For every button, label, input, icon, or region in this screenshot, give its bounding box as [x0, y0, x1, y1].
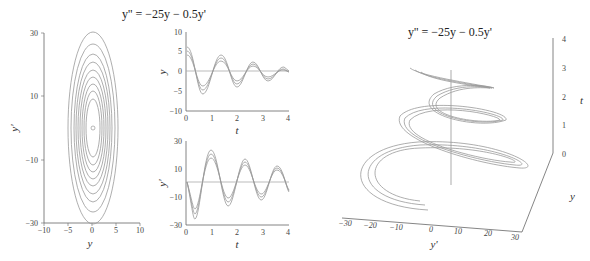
right-figure-title: y'' = −25y − 0.5y'	[408, 25, 492, 39]
d3-xtick: 30	[510, 233, 519, 242]
left-figure-title: y'' = −25y − 0.5y'	[122, 7, 206, 21]
ty-ytick: 0	[178, 67, 182, 76]
d3-xlabel: y'	[429, 238, 438, 250]
d3-xtick: 20	[484, 229, 492, 238]
y-vs-t-plot: 10 5 0 −5 −10 0 1 2 3 4 t y	[156, 28, 290, 136]
ty-ylabel: y	[156, 69, 168, 75]
phase-ylabel: y'	[8, 124, 20, 133]
d3-ztick: 2	[562, 93, 566, 102]
phase-ytick: 30	[30, 29, 38, 38]
phase-xtick: 10	[136, 226, 144, 235]
typ-ylabel: y'	[156, 179, 168, 188]
typ-xtick: 4	[286, 228, 290, 237]
phase-xtick: 0	[90, 226, 94, 235]
ty-xtick: 2	[235, 114, 239, 123]
ty-xtick: 0	[184, 114, 188, 123]
ty-ytick: −10	[169, 107, 182, 116]
d3-ylabel: y	[569, 190, 575, 202]
d3-ztick: 4	[562, 35, 566, 44]
phase-ytick: 10	[30, 92, 38, 101]
equilibrium-marker	[91, 126, 95, 130]
d3-ztick: 1	[562, 121, 566, 130]
typ-ytick: −10	[169, 193, 182, 202]
phase-xtick: 5	[114, 226, 118, 235]
ty-xlabel: t	[235, 124, 239, 136]
phase-xtick: −10	[38, 226, 51, 235]
d3-xtick: −20	[363, 221, 376, 230]
ty-ytick: 10	[174, 28, 182, 37]
d3-ztick: 3	[562, 64, 566, 73]
ty-xtick: 3	[261, 114, 265, 123]
typ-ytick: 10	[174, 165, 182, 174]
d3-xtick: −10	[389, 223, 402, 232]
typ-xtick: 1	[210, 228, 214, 237]
d3-ztick: 0	[562, 150, 566, 159]
typ-xtick: 0	[184, 228, 188, 237]
typ-ytick: 30	[174, 137, 182, 146]
d3-xtick: 0	[429, 225, 433, 234]
phase-ytick: −10	[25, 156, 38, 165]
figure-canvas: y'' = −25y − 0.5y' 30 10 −10 −30 −10 −5 …	[0, 0, 590, 261]
phase-ytick: −30	[25, 219, 38, 228]
yprime-vs-t-plot: 30 10 −10 −30 0 1 2 3 4 t y'	[156, 137, 290, 250]
3d-trajectory-plot: 4 3 2 1 0 t y −30 −20 −10 0 10 20 30 y'	[338, 35, 584, 250]
ty-xtick: 1	[210, 114, 214, 123]
ty-ytick: 5	[178, 47, 182, 56]
phase-xlabel: y	[87, 237, 93, 249]
d3-xtick: −30	[338, 219, 351, 228]
ty-xtick: 4	[286, 114, 290, 123]
typ-xlabel: t	[235, 238, 239, 250]
typ-ytick: −30	[169, 221, 182, 230]
typ-xtick: 2	[235, 228, 239, 237]
phase-plane-plot: 30 10 −10 −30 −10 −5 0 5 10 y y'	[8, 29, 144, 249]
ty-ytick: −5	[173, 87, 182, 96]
phase-xtick: −5	[64, 226, 73, 235]
typ-xtick: 3	[261, 228, 265, 237]
d3-xtick: 10	[454, 227, 462, 236]
d3-zlabel: t	[580, 94, 584, 106]
